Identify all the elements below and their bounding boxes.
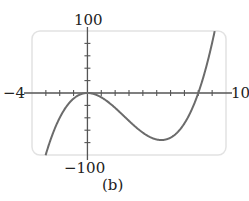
x-max-label: 10 (231, 86, 249, 101)
y-max-label: 100 (74, 13, 103, 28)
x-min-label: −4 (3, 86, 25, 101)
function-graph (0, 0, 249, 201)
y-min-label: −100 (64, 161, 105, 176)
figure-caption: (b) (102, 178, 123, 193)
